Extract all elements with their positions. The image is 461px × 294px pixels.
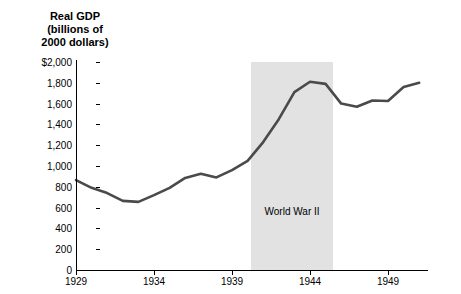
x-tick-label: 1929: [65, 276, 87, 287]
x-tick-mark: [154, 271, 155, 275]
x-tick-label: 1939: [221, 276, 243, 287]
y-tick-mark: [96, 62, 100, 63]
x-tick-label: 1944: [299, 276, 321, 287]
x-tick-mark: [310, 271, 311, 275]
y-tick-label: 400: [55, 223, 72, 234]
y-tick-label: 1,800: [47, 77, 72, 88]
y-tick-label: 200: [55, 244, 72, 255]
x-tick-label: 1949: [377, 276, 399, 287]
y-tick-mark: [96, 249, 100, 250]
y-tick-mark: [96, 83, 100, 84]
y-tick-label: 1,000: [47, 161, 72, 172]
x-tick-mark: [76, 271, 77, 275]
real-gdp-line-chart: Real GDP (billions of 2000 dollars) Worl…: [0, 0, 461, 294]
y-axis-tick-labels: 02004006008001,0001,2001,4001,6001,800$2…: [24, 0, 72, 294]
y-tick-label: 800: [55, 181, 72, 192]
y-tick-mark: [96, 187, 100, 188]
y-tick-mark: [96, 228, 100, 229]
y-tick-label: 1,600: [47, 98, 72, 109]
y-axis-line: [76, 60, 77, 271]
x-axis-line: [76, 270, 428, 271]
x-tick-label: 1934: [143, 276, 165, 287]
y-tick-label: 1,200: [47, 140, 72, 151]
y-tick-label: $2,000: [41, 57, 72, 68]
x-axis-tick-labels: 19291934193919441949: [0, 274, 461, 292]
y-tick-label: 600: [55, 202, 72, 213]
x-tick-mark: [388, 271, 389, 275]
y-tick-label: 1,400: [47, 119, 72, 130]
y-tick-mark: [96, 145, 100, 146]
y-tick-mark: [96, 166, 100, 167]
y-tick-mark: [96, 124, 100, 125]
y-tick-mark: [96, 270, 100, 271]
x-tick-mark: [232, 271, 233, 275]
y-tick-mark: [96, 208, 100, 209]
y-tick-mark: [96, 104, 100, 105]
